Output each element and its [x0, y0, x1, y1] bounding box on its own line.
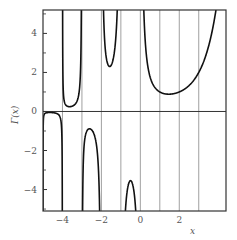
gamma-function-chart: 420−2−4 −4−202 x Γ(x)	[0, 0, 237, 240]
y-tick-label: −4	[24, 185, 38, 195]
x-tick-label: −2	[95, 215, 108, 225]
y-tick-label: −2	[24, 146, 37, 156]
y-axis-label: Γ(x)	[10, 105, 20, 125]
y-tick-label: 4	[31, 28, 37, 38]
gamma-curve-branch	[140, 0, 226, 94]
gamma-curve-branch	[43, 113, 62, 231]
y-tick-label: 0	[31, 106, 37, 116]
y-tick-label: 2	[31, 67, 37, 77]
x-axis-label: x	[190, 226, 195, 236]
x-tick-label: 2	[176, 215, 182, 225]
gamma-curve-branch	[62, 0, 81, 107]
x-axis-ticks: −4−202	[56, 215, 182, 225]
x-tick-label: 0	[137, 215, 143, 225]
x-tick-label: −4	[56, 215, 70, 225]
